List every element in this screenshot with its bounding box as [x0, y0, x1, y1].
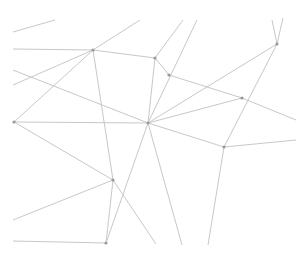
edge-layer: [13, 18, 296, 245]
edge-line: [148, 58, 155, 123]
node-D: [12, 120, 15, 123]
edge-line: [148, 98, 242, 123]
edge-line: [13, 49, 93, 50]
edge-line: [224, 140, 296, 147]
node-J: [104, 241, 107, 244]
node-A: [91, 48, 94, 51]
edge-line: [155, 20, 183, 58]
edge-line: [13, 180, 113, 220]
edge-line: [148, 123, 224, 147]
node-H: [222, 145, 225, 148]
edge-line: [93, 50, 155, 58]
edge-line: [272, 20, 277, 44]
network-diagram: [0, 0, 296, 260]
edge-line: [14, 122, 113, 180]
node-I: [111, 178, 114, 181]
edge-line: [13, 70, 148, 123]
edge-line: [113, 180, 156, 244]
node-B: [153, 56, 156, 59]
edge-line: [14, 122, 148, 123]
node-G: [275, 42, 278, 45]
node-C: [167, 73, 170, 76]
edge-line: [93, 20, 140, 50]
edge-line: [169, 75, 242, 98]
edge-line: [13, 50, 93, 85]
node-F: [240, 96, 243, 99]
edge-line: [13, 241, 106, 243]
edge-line: [242, 98, 296, 120]
edge-line: [13, 20, 55, 32]
edge-line: [93, 50, 113, 180]
edge-line: [148, 123, 182, 245]
node-layer: [12, 42, 278, 244]
node-E: [146, 121, 149, 124]
edge-line: [208, 147, 224, 245]
edge-line: [155, 58, 169, 75]
edge-line: [148, 44, 277, 123]
edge-line: [224, 44, 277, 147]
edge-line: [277, 18, 283, 44]
